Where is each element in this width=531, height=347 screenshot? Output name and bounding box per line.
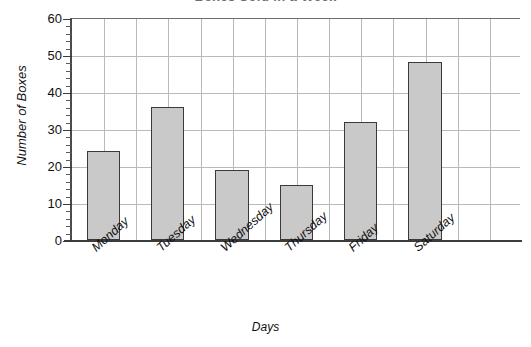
y-axis-minor-tick xyxy=(66,174,72,175)
gridline-horizontal xyxy=(72,56,520,57)
chart-title-clipped: Boxes Sold in a Week xyxy=(0,0,531,7)
y-axis-tick-label: 0 xyxy=(55,233,62,248)
plot-area xyxy=(70,18,520,240)
x-axis-tick-labels: MondayTuesdayWednesdayThursdayFridaySatu… xyxy=(70,244,520,316)
gridline-horizontal xyxy=(72,130,520,131)
y-axis-minor-tick xyxy=(66,34,72,35)
bar-saturday xyxy=(408,62,441,240)
y-axis-minor-tick xyxy=(66,78,72,79)
y-axis-minor-tick xyxy=(66,160,72,161)
y-axis-minor-tick xyxy=(66,26,72,27)
gridline-horizontal xyxy=(72,93,520,94)
y-axis-minor-tick xyxy=(66,115,72,116)
y-axis-minor-tick xyxy=(66,234,72,235)
gridline-horizontal xyxy=(72,167,520,168)
y-axis-tick-label: 40 xyxy=(48,85,62,100)
gridline-vertical xyxy=(458,19,459,240)
y-axis-minor-tick xyxy=(66,189,72,190)
gridline-vertical xyxy=(490,19,491,240)
chart-title: Boxes Sold in a Week xyxy=(0,0,531,4)
y-axis-tick-label: 30 xyxy=(48,122,62,137)
y-axis-major-tick xyxy=(63,241,72,242)
y-axis-tick-label: 10 xyxy=(48,196,62,211)
y-axis-major-tick xyxy=(63,56,72,57)
y-axis-minor-tick xyxy=(66,108,72,109)
y-axis-minor-tick xyxy=(66,86,72,87)
y-axis-minor-tick xyxy=(66,63,72,64)
y-axis-tick-label: 60 xyxy=(48,11,62,26)
y-axis-minor-tick xyxy=(66,219,72,220)
y-axis-tick-label: 50 xyxy=(48,48,62,63)
gridline-vertical xyxy=(393,19,394,240)
y-axis-minor-tick xyxy=(66,49,72,50)
y-axis-minor-tick xyxy=(66,182,72,183)
y-axis-major-tick xyxy=(63,19,72,20)
chart-figure: Boxes Sold in a Week Number of Boxes 010… xyxy=(0,0,531,347)
gridline-vertical xyxy=(201,19,202,240)
y-axis-major-tick xyxy=(63,167,72,168)
y-axis-minor-tick xyxy=(66,137,72,138)
y-axis-minor-tick xyxy=(66,211,72,212)
y-axis-minor-tick xyxy=(66,100,72,101)
y-axis-minor-tick xyxy=(66,71,72,72)
y-axis-tick-label: 20 xyxy=(48,159,62,174)
y-axis-minor-tick xyxy=(66,123,72,124)
y-axis-major-tick xyxy=(63,130,72,131)
gridline-vertical xyxy=(329,19,330,240)
y-axis-major-tick xyxy=(63,204,72,205)
y-axis-tick-labels: 0102030405060 xyxy=(24,0,62,260)
y-axis-minor-tick xyxy=(66,41,72,42)
gridline-vertical xyxy=(136,19,137,240)
y-axis-minor-tick xyxy=(66,152,72,153)
y-axis-minor-tick xyxy=(66,145,72,146)
y-axis-major-tick xyxy=(63,93,72,94)
y-axis-minor-tick xyxy=(66,226,72,227)
x-axis-title: Days xyxy=(0,320,531,334)
y-axis-minor-tick xyxy=(66,197,72,198)
